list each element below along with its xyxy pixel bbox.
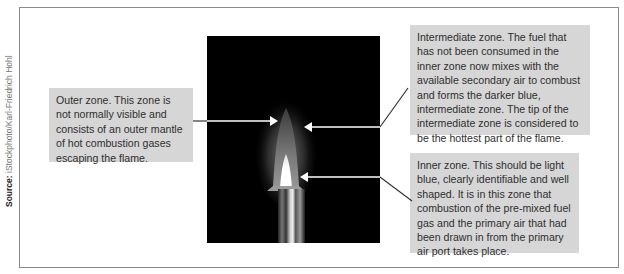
- callout-inner-zone: Inner zone. This should be light blue, c…: [410, 153, 579, 253]
- source-credit: Source: iStockphoto/Karl-Friedrich Hohl: [3, 7, 15, 207]
- bunsen-flame-image: [207, 36, 380, 243]
- callout-outer-zone-text: Outer zone. This zone is not normally vi…: [56, 94, 183, 164]
- source-label: Source:: [4, 175, 14, 207]
- source-credit-name: iStockphoto/Karl-Friedrich Hohl: [4, 55, 14, 173]
- flame-photo: [207, 36, 380, 243]
- callout-intermediate-zone-text: Intermediate zone. The fuel that has not…: [417, 31, 580, 144]
- source-credit-text: Source: iStockphoto/Karl-Friedrich Hohl: [3, 55, 15, 207]
- callout-outer-zone: Outer zone. This zone is not normally vi…: [49, 88, 193, 162]
- callout-inner-zone-text: Inner zone. This should be light blue, c…: [417, 159, 571, 257]
- callout-intermediate-zone: Intermediate zone. The fuel that has not…: [410, 25, 590, 135]
